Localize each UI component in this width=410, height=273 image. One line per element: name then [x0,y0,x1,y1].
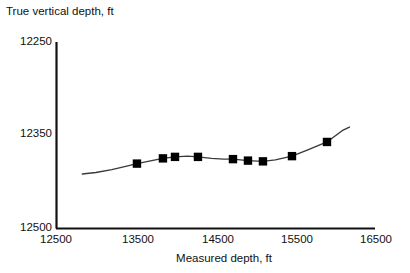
data-point-marker [133,159,141,167]
plot-canvas [0,0,410,273]
data-point-marker [259,157,267,165]
chart-figure: True vertical depth, ft 12250 12350 1250… [0,0,410,273]
data-point-marker [244,156,252,164]
survey-curve-line [82,127,349,174]
data-point-marker [288,152,296,160]
data-point-marker [194,153,202,161]
axis-spines [56,42,375,229]
data-point-marker [323,138,331,146]
data-point-marker [229,155,237,163]
data-point-marker [159,154,167,162]
data-series-layer [82,127,349,174]
data-point-marker [171,153,179,161]
